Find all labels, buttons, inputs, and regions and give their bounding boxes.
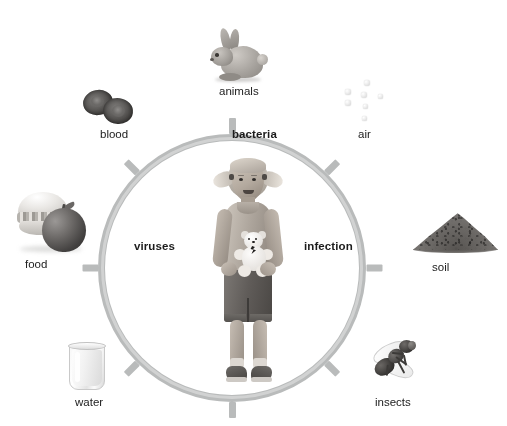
girl-shorts-seam	[247, 298, 249, 322]
rabbit-head	[211, 47, 233, 66]
ring-tick-water	[123, 360, 139, 376]
glass-rim	[68, 342, 106, 350]
rabbit-foot	[219, 73, 241, 81]
burger-apple-icon	[14, 190, 92, 252]
girl-hand-left	[221, 262, 237, 276]
rabbit-icon	[207, 28, 269, 82]
inner-label-infection: infection	[304, 240, 353, 252]
source-label-food: food	[25, 258, 47, 270]
ring-tick-food	[82, 265, 98, 272]
air-droplet-1	[364, 80, 370, 86]
soil-mound-icon	[411, 206, 499, 254]
blood-cells-icon	[83, 86, 139, 126]
girl-eye-left	[239, 178, 243, 181]
ring-tick-soil	[366, 265, 382, 272]
glass-highlight	[75, 352, 80, 382]
source-label-animals: animals	[219, 85, 259, 97]
girl-hair-tie-left	[229, 174, 234, 180]
source-label-air: air	[358, 128, 371, 140]
fly-eye	[408, 341, 416, 350]
rabbit-eye	[215, 53, 219, 57]
ring-tick-insects	[324, 360, 340, 376]
girl-shoe-sole-left	[226, 377, 247, 382]
air-droplet-6	[363, 104, 368, 109]
soil-texture	[411, 210, 499, 250]
blood-cell-2-dimple	[112, 105, 125, 117]
inner-label-viruses: viruses	[134, 240, 175, 252]
air-droplet-2	[345, 89, 351, 95]
girl-hair-tie-right	[262, 174, 267, 180]
source-label-insects: insects	[375, 396, 411, 408]
girl-hand-right	[260, 262, 276, 276]
air-droplet-3	[361, 92, 367, 98]
girl-figure	[193, 152, 303, 387]
blood-cell-1-dimple	[91, 96, 104, 107]
fly-icon	[366, 336, 424, 388]
source-label-water: water	[75, 396, 103, 408]
girl-collar	[237, 202, 259, 214]
air-droplet-7	[362, 116, 367, 121]
source-label-soil: soil	[432, 261, 449, 273]
source-label-blood: blood	[100, 128, 128, 140]
water-glass-icon	[66, 340, 108, 392]
inner-label-bacteria: bacteria	[232, 128, 277, 140]
rabbit-nose	[210, 58, 214, 61]
teddy-leg-left	[238, 265, 251, 277]
apple-body	[42, 208, 86, 252]
girl-shoe-sole-right	[251, 377, 272, 382]
ring-tick-air	[324, 159, 340, 175]
rabbit-tail	[257, 54, 268, 65]
girl-eye-right	[252, 178, 256, 181]
girl-bangs	[230, 158, 266, 173]
air-droplets-icon	[340, 78, 400, 130]
air-droplet-4	[378, 94, 383, 99]
diagram-canvas: bacteria viruses infection	[0, 0, 507, 426]
ring-tick-bottom	[229, 402, 236, 418]
air-droplet-5	[345, 100, 351, 106]
